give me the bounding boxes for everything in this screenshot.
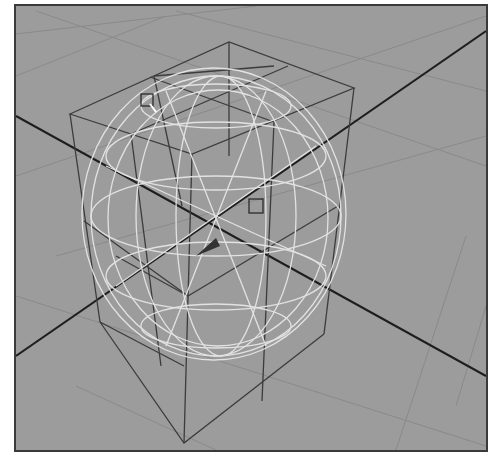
x-axis-line	[16, 116, 486, 376]
viewport-canvas[interactable]	[16, 6, 486, 450]
sphere-mesh[interactable]	[82, 68, 346, 360]
direction-arrow-icon	[196, 238, 220, 256]
world-axes	[16, 31, 486, 376]
3d-viewport[interactable]	[14, 4, 488, 452]
